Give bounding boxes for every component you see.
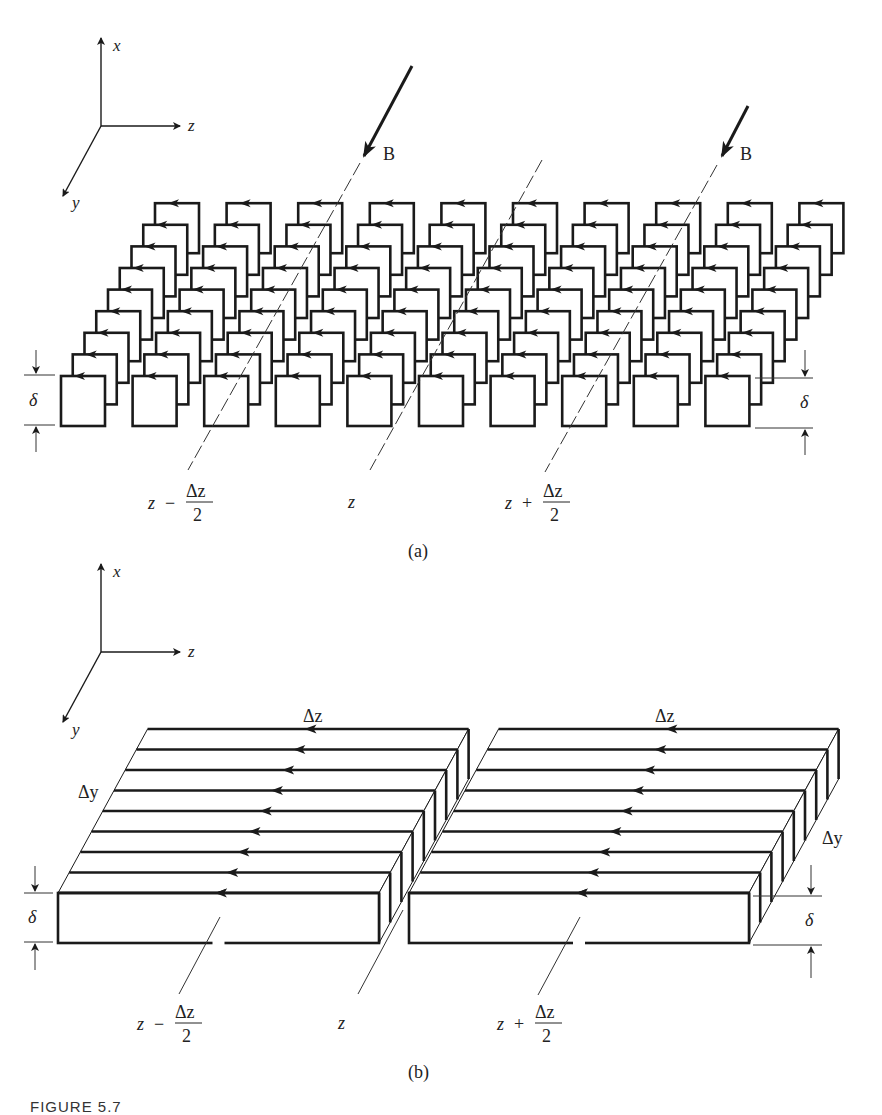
current-loop (276, 376, 320, 426)
axes-triad-b (63, 564, 180, 722)
part-a: x z y B B δ (24, 36, 843, 562)
axis-label-z: z (187, 116, 195, 135)
guide-label-z-plus-a: z + Δz 2 (504, 481, 570, 525)
b-field-arrow-left-icon (364, 66, 412, 156)
delta-z-label-left: Δz (303, 706, 323, 726)
axis-label-y: y (70, 193, 80, 212)
svg-text:−: − (165, 493, 175, 513)
guide-label-z-plus-b: z + Δz 2 (496, 1002, 562, 1046)
svg-text:−: − (154, 1014, 164, 1034)
guide-label-z-minus-b: z − Δz 2 (136, 1002, 202, 1046)
svg-text:Δz: Δz (175, 1002, 195, 1022)
svg-text:Δz: Δz (535, 1002, 555, 1022)
svg-text:z: z (147, 493, 155, 513)
b-field-arrows (364, 66, 748, 156)
part-b-label: (b) (408, 1062, 429, 1083)
svg-text:z: z (136, 1014, 144, 1034)
delta-label-left-b: δ (28, 907, 37, 927)
svg-text:2: 2 (193, 505, 202, 525)
svg-text:z: z (504, 493, 512, 513)
slab-front-face (58, 893, 379, 943)
svg-text:+: + (514, 1014, 524, 1034)
current-loop (491, 376, 535, 426)
current-loop (133, 376, 177, 426)
guide-label-z-b: z (337, 1013, 345, 1033)
axes-triad-a (63, 38, 180, 196)
axis-label-x: x (112, 36, 121, 55)
axis-label-y: y (70, 720, 80, 739)
current-loop (634, 376, 678, 426)
delta-y-label-left: Δy (78, 782, 99, 802)
delta-label-right-a: δ (800, 392, 809, 412)
svg-text:+: + (522, 493, 532, 513)
current-loop-array (61, 199, 843, 426)
svg-text:2: 2 (182, 1026, 191, 1046)
delta-label-left-a: δ (29, 390, 38, 410)
guide-label-z-a: z (347, 492, 355, 512)
y-axis-arrow-icon (63, 652, 101, 722)
current-slab-array (58, 725, 839, 947)
current-loop (347, 376, 391, 426)
delta-z-label-right: Δz (655, 706, 675, 726)
part-a-label: (a) (408, 541, 428, 562)
b-field-label-right: B (740, 144, 752, 164)
svg-text:2: 2 (542, 1026, 551, 1046)
svg-text:Δz: Δz (186, 481, 206, 501)
part-b: x z y Δz Δz Δy Δy δ δ z − (24, 562, 843, 1083)
current-loop (705, 376, 749, 426)
current-loop (419, 376, 463, 426)
guide-label-z-minus-a: z − Δz 2 (147, 481, 213, 525)
y-axis-arrow-icon (63, 126, 101, 196)
current-loop (61, 376, 105, 426)
current-loop (562, 376, 606, 426)
svg-text:2: 2 (550, 505, 559, 525)
delta-y-label-right: Δy (822, 828, 843, 848)
axis-label-z: z (187, 642, 195, 661)
axis-label-x: x (112, 562, 121, 581)
b-field-label-left: B (383, 144, 395, 164)
delta-label-right-b: δ (805, 910, 814, 930)
svg-text:z: z (496, 1014, 504, 1034)
figure-caption: FIGURE 5.7 (30, 1098, 122, 1115)
svg-text:Δz: Δz (543, 481, 563, 501)
